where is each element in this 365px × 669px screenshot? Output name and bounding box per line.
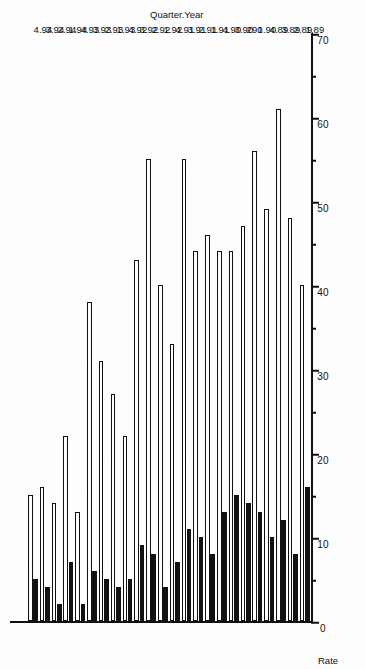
bar-group bbox=[288, 33, 299, 621]
bar-solid bbox=[116, 587, 121, 621]
bar-open bbox=[276, 109, 281, 621]
bar-group bbox=[75, 33, 86, 621]
bar-open bbox=[87, 302, 92, 621]
bar-open bbox=[134, 260, 139, 621]
bar-open bbox=[252, 151, 257, 621]
bar-solid bbox=[128, 579, 133, 621]
bar-group bbox=[193, 33, 204, 621]
bar-solid bbox=[246, 503, 251, 621]
bar-open bbox=[28, 495, 33, 621]
bar-open bbox=[111, 394, 116, 621]
bar-solid bbox=[57, 604, 62, 621]
bar-solid bbox=[33, 579, 38, 621]
bar-open bbox=[158, 285, 163, 621]
bar-solid bbox=[81, 604, 86, 621]
bar-solid bbox=[175, 562, 180, 621]
value-tick-minor bbox=[311, 160, 316, 162]
bar-open bbox=[300, 285, 305, 621]
bar-group bbox=[134, 33, 145, 621]
bar-solid bbox=[92, 571, 97, 621]
value-tick-minor bbox=[311, 580, 316, 582]
bar-group bbox=[205, 33, 216, 621]
bar-solid bbox=[140, 545, 145, 621]
bar-group bbox=[170, 33, 181, 621]
bar-open bbox=[241, 226, 246, 621]
bar-open bbox=[217, 251, 222, 621]
value-tick-minor bbox=[311, 496, 316, 498]
bar-open bbox=[205, 235, 210, 621]
value-tick-label: 70 bbox=[317, 35, 329, 46]
bar-group bbox=[123, 33, 134, 621]
bar-open bbox=[40, 487, 45, 621]
bar-group bbox=[276, 33, 287, 621]
value-axis: 010203040506070 bbox=[311, 33, 313, 623]
bar-open bbox=[182, 159, 187, 621]
bar-solid bbox=[104, 579, 109, 621]
bar-group bbox=[28, 33, 39, 621]
bar-group bbox=[52, 33, 63, 621]
value-tick-label: 0 bbox=[320, 623, 326, 634]
bar-group bbox=[40, 33, 51, 621]
value-tick-label: 60 bbox=[317, 119, 329, 130]
bar-open bbox=[52, 503, 57, 621]
bar-open bbox=[264, 209, 269, 621]
bar-group bbox=[87, 33, 98, 621]
category-axis-line bbox=[10, 621, 311, 623]
bar-solid bbox=[281, 520, 286, 621]
bar-group bbox=[63, 33, 74, 621]
value-tick-label: 30 bbox=[317, 371, 329, 382]
bar-group bbox=[264, 33, 275, 621]
value-tick-minor bbox=[311, 76, 316, 78]
bar-open bbox=[229, 251, 234, 621]
plot-area bbox=[28, 33, 311, 623]
bar-group bbox=[111, 33, 122, 621]
value-axis-title: Rate bbox=[318, 655, 338, 666]
bar-open bbox=[99, 361, 104, 621]
bar-group bbox=[217, 33, 228, 621]
bar-solid bbox=[305, 487, 310, 621]
bar-chart-figure: 010203040506070 Rate 4.943.942.941.944.9… bbox=[0, 0, 365, 669]
bar-open bbox=[63, 436, 68, 621]
bar-group bbox=[300, 33, 311, 621]
value-tick-minor bbox=[311, 244, 316, 246]
bar-solid bbox=[69, 562, 74, 621]
bar-group bbox=[182, 33, 193, 621]
bar-group bbox=[146, 33, 157, 621]
bar-solid bbox=[187, 529, 192, 621]
bar-solid bbox=[151, 554, 156, 621]
bar-solid bbox=[234, 495, 239, 621]
value-tick-minor bbox=[311, 328, 316, 330]
bar-group bbox=[158, 33, 169, 621]
bar-solid bbox=[163, 587, 168, 621]
bar-open bbox=[170, 344, 175, 621]
bar-solid bbox=[293, 554, 298, 621]
bar-open bbox=[288, 218, 293, 621]
bar-open bbox=[123, 436, 128, 621]
value-tick-minor bbox=[311, 412, 316, 414]
value-tick-label: 10 bbox=[317, 539, 329, 550]
category-axis-title: Quarter.Year bbox=[150, 9, 204, 20]
bar-solid bbox=[210, 554, 215, 621]
bar-solid bbox=[45, 587, 50, 621]
bar-group bbox=[252, 33, 263, 621]
bar-solid bbox=[258, 512, 263, 621]
bar-group bbox=[241, 33, 252, 621]
value-tick-label: 40 bbox=[317, 287, 329, 298]
bar-group bbox=[229, 33, 240, 621]
category-tick-label: 1.89 bbox=[305, 24, 331, 35]
page-rotation-wrapper: 010203040506070 Rate 4.943.942.941.944.9… bbox=[0, 0, 365, 669]
value-tick-major bbox=[311, 622, 319, 624]
bar-group bbox=[99, 33, 110, 621]
bar-solid bbox=[199, 537, 204, 621]
value-tick-label: 20 bbox=[317, 455, 329, 466]
bar-solid bbox=[222, 512, 227, 621]
bar-open bbox=[146, 159, 151, 621]
bar-open bbox=[193, 251, 198, 621]
bar-solid bbox=[270, 537, 275, 621]
value-tick-label: 50 bbox=[317, 203, 329, 214]
bar-rows-container bbox=[28, 33, 311, 621]
bar-open bbox=[75, 512, 80, 621]
